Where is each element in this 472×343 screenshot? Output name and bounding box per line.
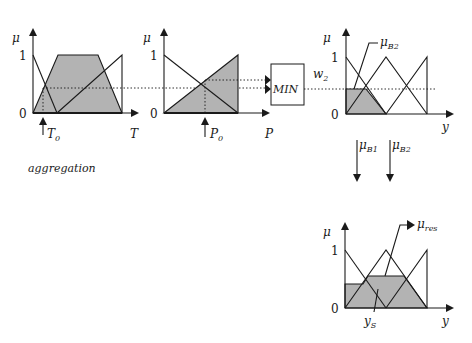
t0-label: T0: [47, 127, 60, 143]
mu-res-callout: μres: [417, 217, 437, 233]
trapezoid-membership-shaded: [33, 55, 122, 113]
tick-one: 1: [331, 51, 339, 65]
x-axis-label-P: P: [264, 127, 274, 141]
x-axis-label-y: y: [441, 314, 449, 328]
consequent-arrows: μB1 μB2: [357, 138, 411, 180]
panel-output: μ 1 0 y μB2: [323, 30, 452, 134]
mu-label: μ: [323, 225, 331, 239]
arrow-head-lower: [265, 84, 271, 94]
min-label: MIN: [272, 83, 299, 96]
mu-b2-callout-line: [354, 43, 378, 89]
arrow-head-upper: [265, 75, 271, 85]
aggregation-label: aggregation: [28, 162, 96, 175]
p0-label: P0: [209, 127, 223, 143]
mu-label: μ: [143, 31, 151, 45]
tick-zero: 0: [331, 108, 339, 122]
x-axis-label-T: T: [130, 127, 139, 141]
tick-one: 1: [331, 244, 339, 258]
mu-b2-arrow-label: μB2: [392, 138, 411, 154]
fuzzy-inference-diagram: μ 1 0 T0 T μ 1 0 P0 P MIN w2 μ: [0, 0, 472, 343]
panel-pressure: μ 1 0 P0 P: [143, 30, 274, 143]
tick-zero: 0: [19, 107, 27, 121]
mu-res-callout-line: [385, 225, 407, 276]
mu-label: μ: [12, 31, 20, 45]
mu-b2-callout: μB2: [380, 35, 399, 51]
panel-aggregated-result: μ 1 0 y μres yS: [323, 217, 452, 330]
tick-one: 1: [19, 49, 27, 63]
mu-b1-arrow-label: μB1: [359, 138, 378, 154]
clipped-consequent-shaded: [346, 89, 386, 114]
mu-res-arrow-head: [407, 220, 415, 230]
tick-zero: 0: [150, 107, 158, 121]
aggregated-result-shaded: [345, 276, 427, 308]
x-axis-label-y: y: [441, 120, 449, 134]
weight-label: w2: [313, 67, 328, 83]
mu-label: μ: [323, 31, 331, 45]
tick-one: 1: [150, 49, 158, 63]
tick-zero: 0: [331, 302, 339, 316]
ys-label: yS: [363, 314, 377, 330]
